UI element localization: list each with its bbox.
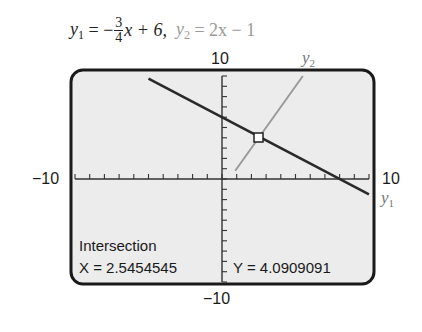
y2-curve-label: y2 — [302, 48, 315, 69]
y1-curve-label: y1 — [381, 188, 394, 209]
x-value-readout: X = 2.5454545 — [79, 259, 177, 276]
xmin-label: −10 — [32, 170, 59, 188]
ymin-label: −10 — [203, 290, 230, 308]
intersection-title: Intersection — [79, 237, 157, 254]
y-value-readout: Y = 4.0909091 — [233, 259, 331, 276]
trace-cursor — [254, 133, 263, 142]
xmax-label: 10 — [382, 170, 400, 188]
ymax-label: 10 — [211, 50, 229, 68]
